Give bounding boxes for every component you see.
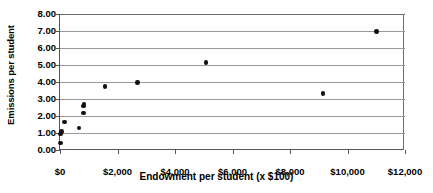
x-axis-tick-mark (233, 150, 234, 154)
gridline-horizontal (60, 82, 405, 83)
y-axis-tick-mark (56, 31, 60, 32)
gridline-horizontal (60, 14, 405, 15)
data-point (135, 80, 140, 85)
y-axis-tick-label: 2.00 (20, 111, 56, 121)
y-axis-tick-label: 4.00 (20, 77, 56, 87)
y-axis-tick-label: 5.00 (20, 60, 56, 70)
data-point (204, 60, 209, 65)
gridline-horizontal (60, 65, 405, 66)
y-axis-tick-labels: 0.001.002.003.004.005.006.007.008.00 (20, 0, 56, 193)
y-axis-tick-mark (56, 82, 60, 83)
x-axis-tick-mark (60, 150, 61, 154)
y-axis-tick-mark (56, 48, 60, 49)
y-axis-tick-mark (56, 65, 60, 66)
y-axis-title: Emissions per student (2, 0, 20, 150)
data-point (58, 141, 63, 146)
gridline-horizontal (60, 116, 405, 117)
x-axis-title: Endowment per student (x $100) (0, 171, 433, 182)
gridline-horizontal (60, 99, 405, 100)
y-axis-tick-label: 6.00 (20, 43, 56, 53)
y-axis-tick-label: 0.00 (20, 145, 56, 155)
plot-area: $0$2,000$4,000$6,000$8,000$10,000$12,000 (59, 14, 404, 150)
data-point (321, 91, 326, 96)
y-axis-tick-mark (56, 14, 60, 15)
gridline-horizontal (60, 133, 405, 134)
scatter-chart: Emissions per student 0.001.002.003.004.… (0, 0, 433, 193)
data-point (59, 129, 64, 134)
data-point (81, 111, 86, 116)
data-point (77, 126, 82, 131)
data-point (374, 29, 379, 34)
gridline-horizontal (60, 31, 405, 32)
y-axis-tick-label: 8.00 (20, 9, 56, 19)
x-axis-tick-mark (348, 150, 349, 154)
data-point (103, 84, 108, 89)
x-axis-tick-mark (290, 150, 291, 154)
gridline-horizontal (60, 48, 405, 49)
y-axis-tick-mark (56, 99, 60, 100)
y-axis-tick-mark (56, 116, 60, 117)
y-axis-tick-label: 1.00 (20, 128, 56, 138)
y-axis-tick-label: 7.00 (20, 26, 56, 36)
y-axis-tick-label: 3.00 (20, 94, 56, 104)
x-axis-tick-mark (405, 150, 406, 154)
x-axis-tick-mark (118, 150, 119, 154)
data-point (62, 120, 67, 125)
x-axis-tick-mark (175, 150, 176, 154)
